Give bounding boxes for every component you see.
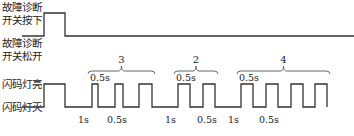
pulse-width-label: 0.5s [176, 72, 196, 83]
switch-pressed-label-line2: 开关按下 [2, 14, 42, 26]
lamp-on-label: 闪码灯亮 [2, 78, 42, 90]
switch-pressed-label-line1: 故障诊断 [2, 1, 43, 13]
interval-label: 1s [228, 114, 239, 125]
pulse-groups: 30.5s20.5s40.5s [88, 54, 330, 83]
interval-label: 1s [78, 114, 89, 125]
switch-released-label-line1: 故障诊断 [2, 37, 43, 49]
switch-labels: 故障诊断 开关按下 故障诊断 开关松开 [2, 1, 43, 62]
group-count-label: 2 [193, 54, 199, 65]
interval-label: 1s [165, 114, 176, 125]
group-count-label: 4 [280, 54, 286, 65]
interval-label: 0.5s [197, 114, 217, 125]
timing-labels: 1s0.5s1s0.5s1s0.5s [78, 114, 279, 125]
lamp-signal-waveform [22, 84, 327, 107]
pulse-width-label: 0.5s [239, 72, 259, 83]
group-count-label: 3 [118, 54, 124, 65]
fault-code-timing-diagram: 故障诊断 开关按下 故障诊断 开关松开 闪码灯亮 闪码灯灭 30.5s20.5s… [0, 0, 354, 136]
interval-label: 0.5s [107, 114, 127, 125]
switch-released-label-line2: 开关松开 [2, 50, 42, 62]
switch-signal-waveform [22, 13, 354, 36]
lamp-labels: 闪码灯亮 闪码灯灭 [2, 78, 43, 113]
pulse-width-label: 0.5s [90, 72, 110, 83]
interval-label: 0.5s [259, 114, 279, 125]
